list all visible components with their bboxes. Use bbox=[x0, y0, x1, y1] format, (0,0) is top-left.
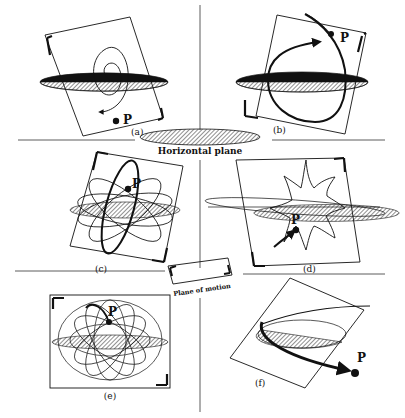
panel-b-label: (b) bbox=[273, 125, 286, 135]
plane-of-motion-caption: Plane of motion bbox=[173, 282, 232, 298]
panel-b: P (b) bbox=[236, 14, 368, 135]
panel-e-label: (e) bbox=[104, 391, 116, 401]
point-p-label: P bbox=[357, 351, 366, 365]
point-p-label: P bbox=[291, 213, 300, 227]
panel-f: P (f) bbox=[230, 278, 370, 388]
panel-d: P (d) bbox=[205, 158, 399, 274]
panel-d-label: (d) bbox=[303, 264, 316, 274]
point-p-label: P bbox=[123, 113, 132, 127]
panel-a: P (a) bbox=[40, 17, 168, 137]
horizontal-plane: Horizontal plane bbox=[140, 129, 260, 156]
panel-c: P (c) bbox=[70, 152, 183, 274]
point-p-label: P bbox=[108, 305, 117, 319]
panel-f-label: (f) bbox=[255, 378, 265, 388]
panel-c-label: (c) bbox=[95, 264, 107, 274]
panel-e: P (e) bbox=[50, 295, 170, 401]
point-p-label: P bbox=[132, 177, 141, 191]
point-p-marker bbox=[113, 118, 119, 124]
point-p-label: P bbox=[340, 31, 349, 45]
diagram-figure: P (a) Horizontal plane P (b) P bbox=[0, 0, 405, 418]
horizontal-plane-caption: Horizontal plane bbox=[158, 146, 243, 156]
